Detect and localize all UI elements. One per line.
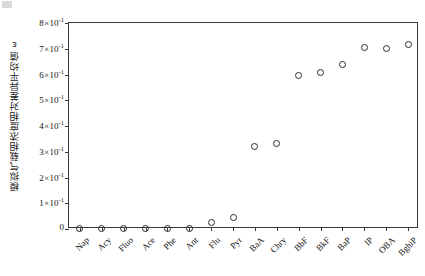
data-point (76, 225, 83, 232)
y-axis-tick-label: 0 (2, 222, 64, 232)
y-axis-tick (65, 49, 69, 50)
x-axis-tick-label: Flu (207, 235, 223, 251)
x-axis-tick (386, 227, 387, 231)
x-axis-tick-label: BaP (336, 235, 354, 253)
x-axis-tick (299, 227, 300, 231)
x-axis-tick-label: Acy (95, 235, 113, 253)
data-point (251, 143, 258, 150)
y-axis-tick (65, 100, 69, 101)
y-axis-tick (65, 23, 69, 24)
x-axis-tick (211, 227, 212, 231)
y-axis-tick-label: 7×10-1 (2, 42, 64, 54)
x-axis-tick-label: BaA (247, 235, 266, 254)
y-axis-tick-label: 8×10-1 (2, 16, 64, 28)
y-axis-tick (65, 152, 69, 153)
y-axis-tick-label: 1×10-1 (2, 196, 64, 208)
x-axis-tick-label: Nap (73, 235, 91, 253)
data-point (273, 140, 280, 147)
y-axis-tick-label: 3×10-1 (2, 145, 64, 157)
x-axis-tick (408, 227, 409, 231)
y-axis-tick-label: 6×10-1 (2, 68, 64, 80)
x-axis-tick (277, 227, 278, 231)
y-axis-tick (65, 203, 69, 204)
y-axis-tick-label: 2×10-1 (2, 171, 64, 183)
y-axis-tick (65, 229, 69, 230)
x-axis-tick (342, 227, 343, 231)
x-axis-tick-label: IP (363, 235, 376, 248)
data-point (164, 225, 171, 232)
data-point (186, 225, 193, 232)
data-point (142, 225, 149, 232)
y-axis-tick-label: 4×10-1 (2, 119, 64, 131)
data-point (208, 219, 215, 226)
x-axis-tick-label: BbF (292, 235, 310, 253)
chart-figure: 模拟气载相浓度相对差异平均值ε 01×10-12×10-13×10-14×10-… (0, 0, 425, 276)
x-axis-tick (255, 227, 256, 231)
plot-area (68, 22, 418, 228)
y-axis-tick (65, 75, 69, 76)
data-point (317, 69, 324, 76)
x-axis-tick-label: Pyr (228, 235, 244, 251)
x-axis-tick-label: OBA (377, 235, 398, 256)
y-axis-tick (65, 178, 69, 179)
y-axis-tick (65, 126, 69, 127)
x-axis-tick (321, 227, 322, 231)
x-axis-tick-label: Ace (139, 235, 156, 252)
x-axis-tick (364, 227, 365, 231)
data-point (383, 45, 390, 52)
data-point (361, 44, 368, 51)
x-axis-tick-label: BkF (314, 235, 332, 253)
data-point (120, 225, 127, 232)
x-axis-tick-label: Fluo (116, 235, 135, 254)
data-point (230, 214, 237, 221)
y-axis-tick-labels: 01×10-12×10-13×10-14×10-15×10-16×10-17×1… (0, 0, 64, 276)
data-point (405, 41, 412, 48)
y-axis-tick-label: 5×10-1 (2, 93, 64, 105)
data-point (98, 225, 105, 232)
x-axis-tick (233, 227, 234, 231)
data-point (295, 72, 302, 79)
x-axis-tick-labels: NapAcyFluoAcePheAntFluPyrBaAChryBbFBkFBa… (68, 232, 418, 276)
x-axis-tick-label: Phe (162, 235, 179, 252)
x-axis-tick-label: Chry (268, 235, 288, 255)
data-point (339, 61, 346, 68)
x-axis-tick-label: Ant (184, 235, 201, 252)
x-axis-tick-label: BghiP (396, 235, 419, 258)
